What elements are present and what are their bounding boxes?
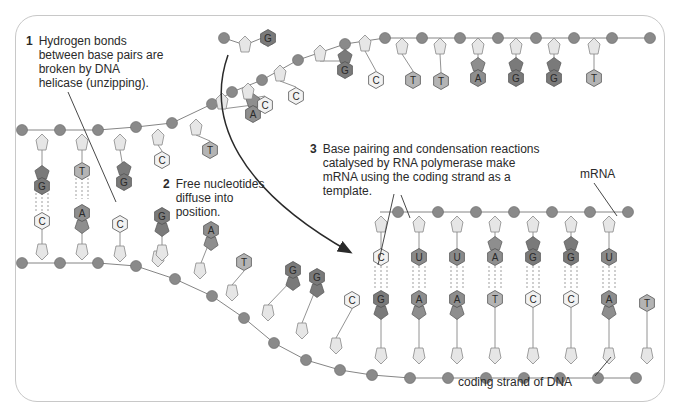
base-a-icon: A: [450, 291, 465, 320]
phosphate-icon: [585, 207, 596, 218]
sugar-icon: [242, 83, 254, 99]
svg-text:C: C: [292, 91, 299, 102]
base-t-icon: T: [434, 73, 449, 90]
svg-text:A: A: [208, 225, 215, 236]
sugar-icon: [510, 38, 522, 54]
svg-text:G: G: [313, 272, 321, 283]
step1-number: 1: [26, 34, 33, 48]
base-t-icon: T: [406, 72, 421, 89]
sugar-icon: [76, 134, 88, 150]
base-a-icon: A: [75, 205, 90, 234]
sugar-icon: [36, 134, 48, 150]
phosphate-icon: [239, 313, 250, 324]
phosphate-icon: [93, 125, 104, 136]
sugar-icon: [548, 38, 560, 54]
base-c-icon: C: [35, 213, 50, 230]
sugar-icon: [603, 348, 615, 364]
phosphate-icon: [547, 207, 558, 218]
sugar-icon: [114, 134, 126, 150]
phosphate-icon: [623, 207, 634, 218]
svg-text:C: C: [38, 216, 45, 227]
phosphate-icon: [170, 274, 181, 285]
svg-text:C: C: [529, 294, 536, 305]
svg-text:A: A: [454, 294, 461, 305]
sugar-icon: [262, 305, 274, 321]
phosphate-icon: [380, 33, 391, 44]
sugar-icon: [489, 348, 501, 364]
phosphate-icon: [293, 55, 304, 66]
sugar-icon: [76, 244, 88, 260]
base-c-icon: C: [526, 291, 541, 308]
base-a-icon: A: [488, 237, 503, 266]
phosphate-icon: [393, 207, 404, 218]
phosphate-icon: [17, 258, 28, 269]
phosphate-icon: [167, 118, 178, 129]
sugar-icon: [472, 38, 484, 54]
phosphate-icon: [471, 207, 482, 218]
svg-text:G: G: [529, 252, 537, 263]
svg-text:A: A: [416, 294, 423, 305]
svg-text:G: G: [550, 73, 558, 84]
base-g-icon: G: [117, 162, 132, 191]
phosphate-icon: [531, 33, 542, 44]
step2-number: 2: [163, 177, 170, 191]
step1-label: 1Hydrogen bonds between base pairs are b…: [26, 34, 176, 90]
sugar-icon: [527, 348, 539, 364]
base-g-icon: G: [509, 58, 524, 87]
base-t-icon: T: [587, 70, 602, 87]
svg-text:G: G: [264, 33, 272, 44]
sugar-icon: [588, 38, 600, 54]
phosphate-icon: [443, 373, 454, 384]
phosphate-icon: [257, 75, 268, 86]
svg-text:G: G: [120, 177, 128, 188]
phosphate-icon: [493, 33, 504, 44]
svg-text:G: G: [289, 265, 297, 276]
sugar-icon: [314, 45, 326, 61]
svg-text:A: A: [250, 109, 257, 120]
phosphate-icon: [131, 261, 142, 272]
step3-number: 3: [310, 142, 317, 156]
phosphate-icon: [405, 373, 416, 384]
svg-text:C: C: [116, 219, 123, 230]
phosphate-icon: [509, 207, 520, 218]
phosphate-icon: [645, 33, 656, 44]
phosphate-icon: [340, 39, 351, 50]
base-a-icon: A: [412, 291, 427, 320]
sugar-icon: [565, 216, 577, 232]
phosphate-icon: [569, 33, 580, 44]
phosphate-icon: [55, 258, 66, 269]
sugar-icon: [603, 216, 615, 232]
svg-text:C: C: [567, 294, 574, 305]
base-c-icon: C: [258, 97, 273, 114]
sugar-icon: [451, 348, 463, 364]
base-g-icon: G: [310, 269, 325, 298]
base-t-icon: T: [75, 163, 90, 180]
base-g-icon: G: [338, 50, 353, 79]
label-pointers: [68, 92, 617, 376]
step3-text: Base pairing and condensation reactions …: [323, 142, 551, 198]
svg-text:C: C: [372, 75, 379, 86]
sugar-icon: [434, 38, 446, 54]
phosphate-icon: [593, 373, 604, 384]
phosphate-icon: [335, 365, 346, 376]
sugar-icon: [641, 348, 653, 364]
svg-text:C: C: [348, 295, 355, 306]
sugar-icon: [239, 36, 251, 52]
svg-text:T: T: [644, 298, 650, 309]
base-u-icon: U: [602, 249, 617, 266]
base-u-icon: U: [412, 249, 427, 266]
base-u-icon: U: [450, 249, 465, 266]
sugar-icon: [36, 244, 48, 260]
sugar-icon: [152, 129, 164, 145]
sugar-icon: [296, 323, 308, 339]
base-a-icon: A: [204, 222, 219, 251]
phosphate-icon: [631, 373, 642, 384]
svg-text:G: G: [38, 181, 46, 192]
svg-text:U: U: [453, 252, 460, 263]
svg-text:G: G: [377, 294, 385, 305]
svg-text:T: T: [410, 75, 416, 86]
sugar-icon: [413, 216, 425, 232]
svg-text:C: C: [158, 155, 165, 166]
svg-text:T: T: [438, 76, 444, 87]
phosphate-icon: [55, 125, 66, 136]
